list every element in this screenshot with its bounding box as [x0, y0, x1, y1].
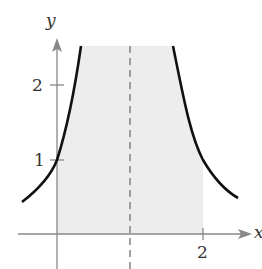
tick-label-y2: 2	[32, 75, 43, 95]
chart: y x 2 1 2	[0, 0, 262, 269]
y-axis-label: y	[45, 10, 56, 30]
tick-label-x2: 2	[197, 242, 208, 262]
plot-area: y x 2 1 2	[0, 0, 262, 269]
tick-label-y1: 1	[34, 150, 45, 170]
x-axis-label: x	[254, 222, 262, 242]
